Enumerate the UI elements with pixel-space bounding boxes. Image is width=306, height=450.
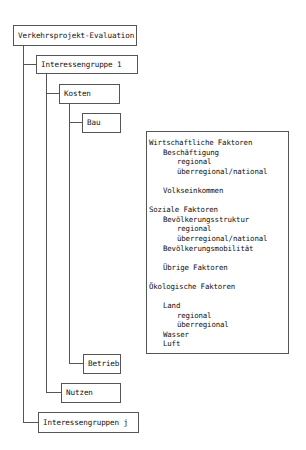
node-interessengruppe-1: Interessengruppe 1 bbox=[36, 55, 138, 74]
connector-group1-vertical bbox=[46, 73, 47, 393]
factor-line: überregional/national bbox=[148, 234, 288, 244]
connector-kosten-to-betrieb bbox=[69, 363, 83, 364]
node-bau: Bau bbox=[82, 113, 121, 133]
node-nutzen: Nutzen bbox=[61, 383, 121, 403]
connector-kosten-to-bau bbox=[69, 122, 82, 123]
factor-line: Bevölkerungsstruktur bbox=[148, 215, 288, 225]
factor-line: Übrige Faktoren bbox=[148, 263, 288, 273]
factor-line: überregional/national bbox=[148, 167, 288, 177]
factor-line: Ökologische Faktoren bbox=[148, 282, 288, 292]
connector-group1-to-nutzen bbox=[46, 392, 61, 393]
factor-spacer bbox=[148, 253, 288, 263]
factor-line: Soziale Faktoren bbox=[148, 205, 288, 215]
connector-kosten-vertical bbox=[69, 103, 70, 364]
factor-line: überregional bbox=[148, 320, 288, 330]
factor-line: Wasser bbox=[148, 330, 288, 340]
factor-spacer bbox=[148, 292, 288, 302]
factor-line: Land bbox=[148, 301, 288, 311]
factor-line: regional bbox=[148, 157, 288, 167]
factor-spacer bbox=[148, 272, 288, 282]
factor-line: regional bbox=[148, 311, 288, 321]
factor-line: regional bbox=[148, 224, 288, 234]
connector-root-to-group1 bbox=[23, 64, 36, 65]
connector-root-vertical bbox=[23, 45, 24, 423]
factor-spacer bbox=[148, 176, 288, 186]
factor-line: Wirtschaftliche Faktoren bbox=[148, 138, 288, 148]
factor-spacer bbox=[148, 196, 288, 206]
factor-line: Bevölkerungsmobilität bbox=[148, 244, 288, 254]
connector-root-to-groupj bbox=[23, 422, 38, 423]
factor-line: Beschäftigung bbox=[148, 148, 288, 158]
node-interessengruppen-j: Interessengruppen j bbox=[38, 412, 139, 433]
connector-group1-to-kosten bbox=[46, 93, 59, 94]
node-kosten: Kosten bbox=[59, 84, 120, 104]
node-betrieb: Betrieb bbox=[83, 354, 121, 374]
factor-line: Volkseinkommen bbox=[148, 186, 288, 196]
factor-line: Luft bbox=[148, 339, 288, 349]
node-root: Verkehrsprojekt-Evaluation bbox=[13, 25, 137, 46]
factors-panel: Wirtschaftliche FaktorenBeschäftigungreg… bbox=[146, 131, 289, 354]
